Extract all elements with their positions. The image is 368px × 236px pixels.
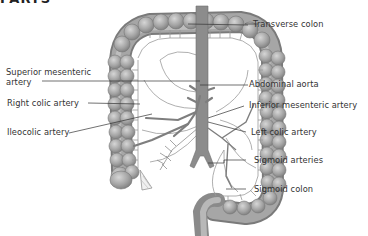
- label-line-2: artery: [6, 77, 91, 87]
- label-left-colic-artery: Left colic artery: [251, 127, 317, 137]
- label-transverse-colon: Transverse colon: [253, 19, 324, 29]
- label-sigmoid-arteries: Sigmoid arteries: [254, 155, 323, 165]
- leader-left-colic: [208, 122, 246, 132]
- colon-illustration: [0, 0, 368, 236]
- label-right-colic-artery: Right colic artery: [7, 98, 79, 108]
- leader-inferior-mesenteric: [208, 106, 244, 118]
- label-sigmoid-colon: Sigmoid colon: [254, 184, 313, 194]
- label-ileocolic-artery: Ileocolic artery: [7, 127, 69, 137]
- label-superior-mesenteric-artery: Superior mesenteric artery: [6, 67, 91, 87]
- inferior-mesenteric-artery: [208, 104, 254, 188]
- cecum: [110, 171, 132, 189]
- label-inferior-mesenteric-artery: Inferior mesenteric artery: [249, 100, 357, 110]
- large-intestine-blood-supply-diagram: PARTS: [0, 0, 368, 236]
- label-abdominal-aorta: Abdominal aorta: [249, 79, 319, 89]
- label-line-1: Superior mesenteric: [6, 67, 91, 77]
- colon: [117, 22, 273, 214]
